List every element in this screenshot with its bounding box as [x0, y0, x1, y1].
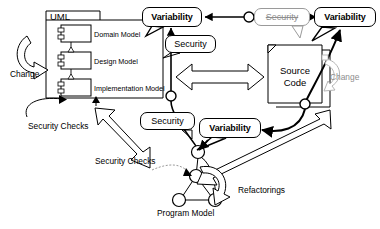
- source-code-label-line1: Source: [265, 65, 325, 77]
- uml-component-boxes: [58, 25, 91, 96]
- callout-security-top-right[interactable]: Security: [254, 8, 310, 26]
- callout-security-top-left[interactable]: Security: [165, 35, 216, 53]
- uml-component-label-domain-model: Domain Model: [94, 30, 140, 39]
- callout-security-middle-label: Security: [151, 116, 184, 126]
- annotation-refactorings: Refactorings: [238, 185, 285, 195]
- uml-component-label-design-model: Design Model: [94, 57, 138, 66]
- program-model-label: Program Model: [157, 208, 214, 218]
- annotation-security-checks-uml: Security Checks: [28, 121, 89, 131]
- callout-variability-middle-label: Variability: [209, 123, 250, 133]
- callout-security-middle[interactable]: Security: [140, 112, 195, 130]
- source-code-label-line2: Code: [265, 77, 325, 89]
- annotation-security-checks-center: Security Checks: [95, 156, 156, 166]
- annotation-change-left: Change: [10, 69, 39, 79]
- callout-security-top-right-label: Security: [266, 12, 299, 22]
- diagram-canvas: UML Domain Model Design Model Implementa…: [0, 0, 380, 229]
- annotation-change-right: Change: [330, 72, 359, 82]
- callout-variability-middle[interactable]: Variability: [199, 118, 261, 138]
- callout-variability-top-right[interactable]: Variability: [314, 7, 376, 27]
- callout-variability-top-right-label: Variability: [324, 12, 365, 22]
- callout-variability-top-left[interactable]: Variability: [142, 7, 202, 27]
- uml-component-label-implementation-model: Implementation Model: [94, 84, 165, 93]
- callout-security-top-left-label: Security: [174, 39, 207, 49]
- callout-variability-top-left-label: Variability: [151, 12, 192, 22]
- uml-package-title: UML: [50, 11, 70, 22]
